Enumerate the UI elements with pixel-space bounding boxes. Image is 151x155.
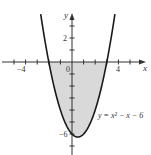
equation-label: y = x² − x − 6 [97,111,143,120]
y-axis-arrow-icon [70,13,75,20]
x-tick-label-0: 0 [66,65,70,74]
x-tick-label-4: 4 [116,65,120,74]
x-tick-label-neg4: −4 [17,65,26,74]
y-tick-label-2: 2 [63,34,67,43]
y-tick-label-neg6: −6 [59,130,68,139]
y-axis-label: y [63,10,68,20]
parabola-figure: y x −4 0 4 2 −6 y = x² − x − 6 [0,0,151,155]
plot-svg: y x −4 0 4 2 −6 y = x² − x − 6 [0,0,151,155]
x-axis-label: x [142,63,147,73]
